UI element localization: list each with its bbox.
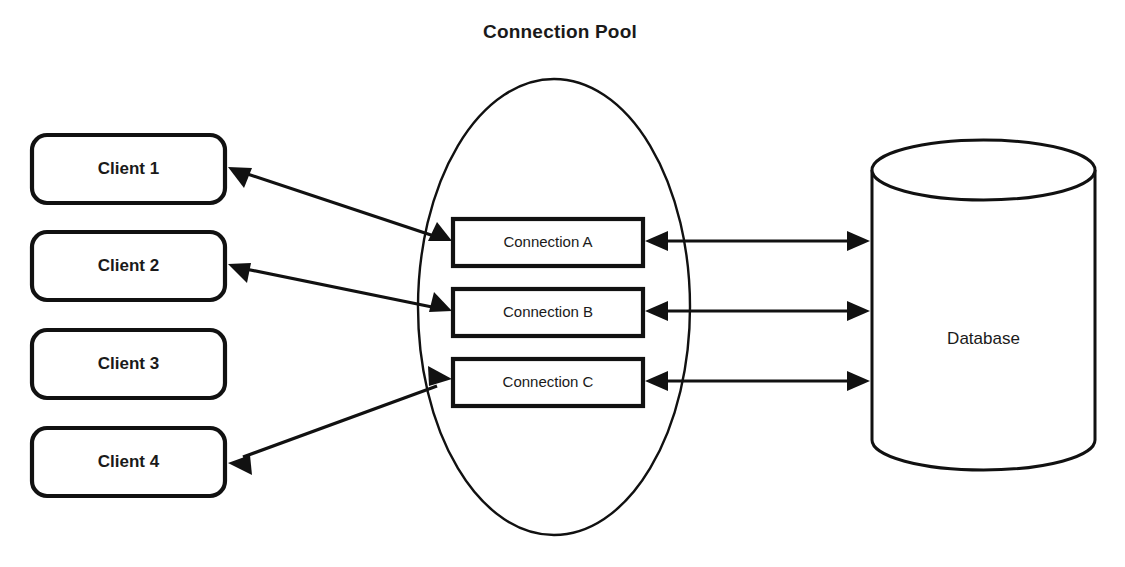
connection-node-a[interactable]: Connection A (453, 219, 643, 266)
connection-pool-diagram: Connection Pool Client 1 Client 2 Client… (0, 0, 1125, 567)
link-line (243, 269, 437, 309)
connection-node-b[interactable]: Connection B (453, 289, 643, 336)
link-line (243, 173, 437, 238)
arrow-head-right (847, 231, 870, 251)
connection-label: Connection A (503, 233, 592, 250)
client-node-4[interactable]: Client 4 (32, 428, 225, 496)
diagram-canvas: Connection Pool Client 1 Client 2 Client… (0, 0, 1125, 567)
database-cylinder-top (872, 140, 1095, 200)
arrow-head-right (847, 301, 870, 321)
client-label: Client 1 (98, 159, 159, 178)
client-node-3[interactable]: Client 3 (32, 330, 225, 398)
link-client1-connectionA (228, 167, 452, 241)
link-line (243, 386, 437, 457)
database-cylinder-body[interactable] (872, 170, 1095, 470)
client-node-1[interactable]: Client 1 (32, 135, 225, 203)
connection-label: Connection C (503, 373, 594, 390)
link-client4-connectionC (228, 366, 452, 475)
database-node[interactable]: Database (872, 140, 1095, 470)
diagram-title: Connection Pool (483, 21, 637, 42)
database-label: Database (947, 329, 1020, 348)
arrow-head-right (847, 371, 870, 391)
client-group: Client 1 Client 2 Client 3 Client 4 (32, 135, 225, 496)
arrow-head-left (228, 455, 252, 475)
connection-label: Connection B (503, 303, 593, 320)
client-node-2[interactable]: Client 2 (32, 232, 225, 300)
arrow-head-left (228, 167, 252, 188)
client-label: Client 2 (98, 256, 159, 275)
client-label: Client 4 (98, 452, 160, 471)
connection-node-c[interactable]: Connection C (453, 359, 643, 406)
arrow-head-left (228, 263, 251, 283)
client-label: Client 3 (98, 354, 159, 373)
connection-group: Connection A Connection B Connection C (453, 219, 643, 406)
